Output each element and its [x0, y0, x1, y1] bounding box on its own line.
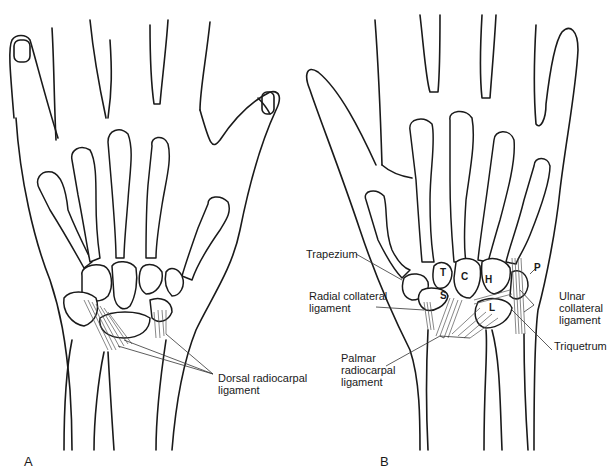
bone-letter-hamate: H [485, 274, 492, 285]
label-trapezium: Trapezium [306, 248, 358, 260]
bone-letter-lunate: L [489, 302, 495, 313]
panel-label-b: B [380, 454, 389, 468]
label-ulnar-collateral-ligament: Ulnar collateral ligament [559, 290, 603, 326]
bone-letter-pisiform: P [534, 262, 541, 273]
bone-letter-scaphoid: S [440, 290, 447, 301]
label-triquetrum: Triquetrum [554, 340, 607, 352]
panel-label-a: A [24, 454, 33, 468]
bone-letter-capitate: C [461, 271, 468, 282]
label-palmar-radiocarpal-ligament: Palmar radiocarpal ligament [341, 352, 395, 388]
label-dorsal-radiocarpal-ligament: Dorsal radiocarpal ligament [218, 372, 307, 396]
label-radial-collateral-ligament: Radial collateral ligament [309, 290, 387, 314]
hand-wrist-illustration [0, 0, 612, 468]
bone-letter-trapezoid: T [440, 267, 446, 278]
